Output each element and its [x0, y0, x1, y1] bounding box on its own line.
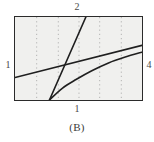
gridlines-group [37, 17, 122, 100]
curves-group [15, 17, 142, 100]
curve-rising-curve [49, 52, 142, 100]
axis-label-left: 1 [3, 60, 13, 70]
plot-canvas [15, 17, 142, 100]
curve-gentle-line [15, 45, 142, 77]
curve-steep-line [49, 17, 85, 100]
axis-label-bottom: 1 [0, 104, 154, 114]
figure-container: 2 1 4 1 (B) [0, 0, 154, 142]
figure-caption: (B) [0, 121, 154, 133]
axis-label-right: 4 [144, 60, 154, 70]
axis-label-top: 2 [0, 2, 154, 12]
plot-area [14, 16, 143, 101]
